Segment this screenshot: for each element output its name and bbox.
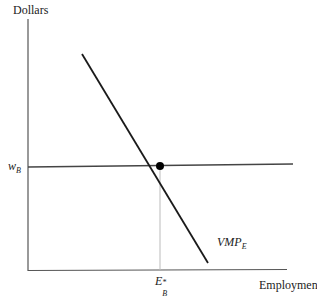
wage-label: wB [8, 160, 21, 175]
equilibrium-point [156, 162, 164, 170]
x-axis-label: Employment [259, 279, 317, 291]
employment-equilibrium-label: E*B [155, 275, 168, 287]
y-axis-label: Dollars [13, 4, 48, 16]
vmp-curve [82, 54, 208, 263]
vmp-label: VMPE [217, 236, 247, 251]
x-axis [28, 270, 287, 271]
chart-canvas [0, 0, 317, 296]
